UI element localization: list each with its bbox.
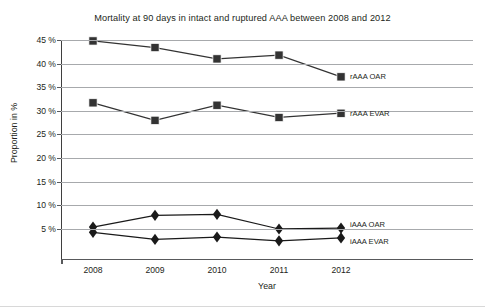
gridline	[61, 111, 473, 112]
series-label-iaaa-oar: iAAA OAR	[350, 220, 385, 229]
gridline	[61, 134, 473, 135]
y-axis-tick	[57, 64, 61, 65]
data-point-marker	[337, 232, 345, 243]
data-point-marker	[213, 231, 221, 242]
y-axis-tick-label: 5 %	[41, 224, 56, 234]
y-axis-tick	[57, 134, 61, 135]
x-axis-title: Year	[61, 281, 473, 291]
data-point-marker	[275, 113, 283, 121]
gridline	[61, 182, 473, 183]
data-point-marker	[151, 234, 159, 245]
x-axis-origin-tick	[61, 259, 63, 264]
data-point-marker	[275, 235, 283, 246]
y-axis-tick-label: 40 %	[36, 59, 56, 69]
y-axis-title: Proportion in %	[9, 73, 19, 193]
data-point-marker	[89, 99, 97, 107]
y-axis-tick	[57, 111, 61, 112]
y-axis-tick-label: 10 %	[36, 200, 56, 210]
x-axis-tick-label: 2010	[187, 265, 247, 275]
y-axis-tick-label: 15 %	[36, 177, 56, 187]
gridline	[61, 87, 473, 88]
chart-title: Mortality at 90 days in intact and ruptu…	[0, 13, 485, 23]
data-point-marker	[151, 43, 159, 51]
gridline	[61, 64, 473, 65]
y-axis-tick	[57, 158, 61, 159]
series-label-raaa-oar: rAAA OAR	[350, 72, 386, 81]
series-label-iaaa-evar: iAAA EVAR	[350, 237, 389, 246]
y-axis-tick-label: 45 %	[36, 35, 56, 45]
data-point-marker	[151, 210, 159, 221]
y-axis-tick	[57, 205, 61, 206]
data-point-marker	[151, 116, 159, 124]
y-axis-tick-label: 30 %	[36, 106, 56, 116]
y-axis-tick-label: 25 %	[36, 129, 56, 139]
x-axis-tick-label: 2008	[63, 265, 123, 275]
x-axis-tick-label: 2012	[311, 265, 371, 275]
data-point-marker	[213, 101, 221, 109]
data-point-marker	[213, 55, 221, 63]
y-axis-tick	[57, 229, 61, 230]
data-point-marker	[213, 209, 221, 220]
gridline	[61, 205, 473, 206]
x-axis-line	[61, 259, 473, 260]
chart-figure: Mortality at 90 days in intact and ruptu…	[0, 0, 485, 308]
bottom-rule	[0, 306, 485, 307]
y-axis-tick	[57, 40, 61, 41]
gridline	[61, 158, 473, 159]
y-axis-tick-label: 35 %	[36, 82, 56, 92]
series-label-raaa-evar: rAAA EVAR	[350, 109, 390, 118]
gridline	[61, 229, 473, 230]
y-axis-tick	[57, 87, 61, 88]
series-layer	[61, 40, 473, 258]
y-axis-tick-label: 20 %	[36, 153, 56, 163]
x-axis-tick-label: 2011	[249, 265, 309, 275]
y-axis-tick	[57, 182, 61, 183]
plot-area	[61, 40, 473, 258]
data-point-marker	[275, 51, 283, 59]
gridline	[61, 40, 473, 41]
x-axis-tick-label: 2009	[125, 265, 185, 275]
data-point-marker	[337, 73, 345, 81]
